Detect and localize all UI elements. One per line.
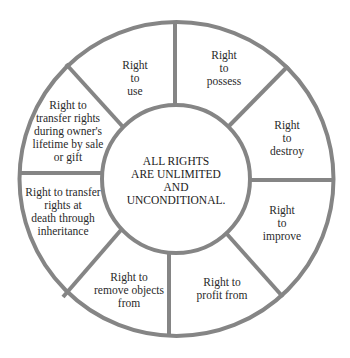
segment-right-to-improve: Right to improve — [263, 204, 301, 243]
segment-right-to-profit-from: Right to profit from — [197, 276, 248, 302]
segment-right-to-remove-objects-from: Right to remove objects from — [94, 271, 164, 310]
segment-right-to-transfer-at-death: Right to transfer rights at death throug… — [25, 186, 100, 238]
center-statement: ALL RIGHTS ARE UNLIMITED AND UNCONDITION… — [127, 155, 226, 207]
segment-right-to-destroy: Right to destroy — [270, 119, 304, 158]
property-rights-wheel-diagram: ALL RIGHTS ARE UNLIMITED AND UNCONDITION… — [0, 0, 350, 358]
segment-right-to-use: Right to use — [122, 59, 148, 98]
segment-right-to-possess: Right to possess — [207, 49, 242, 88]
segment-right-to-transfer-during-lifetime: Right to transfer rights during owner's … — [33, 99, 104, 164]
